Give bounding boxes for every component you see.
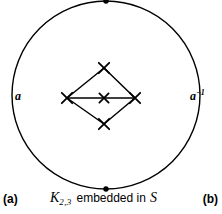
caption-main-text: K2,3embedded inS xyxy=(50,190,157,206)
diagram-background xyxy=(0,0,222,214)
caption-embedded-in-text: embedded in xyxy=(77,191,146,205)
caption-part-label-a: (a) xyxy=(3,192,18,206)
k23-embedding-diagram xyxy=(0,0,222,214)
caption-graph-symbol: K xyxy=(50,190,59,206)
figure-container: a a−1 (a) K2,3embedded inS (b) xyxy=(0,0,222,214)
figure-caption-row: (a) K2,3embedded inS (b) xyxy=(0,190,222,212)
caption-surface-symbol: S xyxy=(150,190,157,206)
caption-part-label-b: (b) xyxy=(203,192,218,206)
